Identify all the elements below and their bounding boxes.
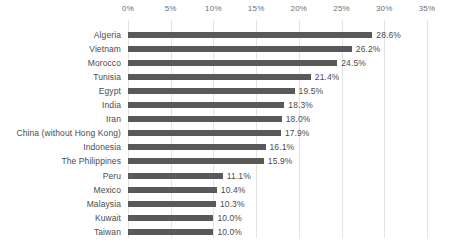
bar-row: Iran18.0%	[0, 112, 452, 126]
bar-row: Peru11.1%	[0, 169, 452, 183]
bar-value-label: 10.3%	[220, 197, 245, 211]
bar-value-label: 10.4%	[221, 183, 246, 197]
bar-value-label: 26.2%	[356, 42, 381, 56]
bar[interactable]	[128, 144, 266, 150]
bar[interactable]	[128, 201, 216, 207]
bar-rows: Algeria28.6%Vietnam26.2%Morocco24.5%Tuni…	[0, 0, 452, 245]
bar-row: China (without Hong Kong)17.9%	[0, 126, 452, 140]
bar[interactable]	[128, 46, 352, 52]
bar-row: Indonesia16.1%	[0, 140, 452, 154]
bar-row: Egypt19.5%	[0, 84, 452, 98]
bar[interactable]	[128, 32, 372, 38]
bar[interactable]	[128, 158, 264, 164]
bar[interactable]	[128, 173, 223, 179]
bar-row: Vietnam26.2%	[0, 42, 452, 56]
bar-value-label: 19.5%	[299, 84, 324, 98]
bar[interactable]	[128, 74, 311, 80]
category-label: The Philippines	[0, 154, 121, 168]
category-label: Morocco	[0, 56, 121, 70]
bar-row: The Philippines15.9%	[0, 154, 452, 168]
bar[interactable]	[128, 88, 295, 94]
bar-chart: 0%5%10%15%20%25%30%35% Algeria28.6%Vietn…	[0, 0, 452, 245]
bar[interactable]	[128, 215, 213, 221]
category-label: Mexico	[0, 183, 121, 197]
category-label: India	[0, 98, 121, 112]
bar-value-label: 16.1%	[270, 140, 295, 154]
bar[interactable]	[128, 102, 284, 108]
bar[interactable]	[128, 130, 281, 136]
bar-value-label: 18.3%	[288, 98, 313, 112]
bar-value-label: 10.0%	[217, 211, 242, 225]
bar-value-label: 24.5%	[341, 56, 366, 70]
category-label: China (without Hong Kong)	[0, 126, 121, 140]
category-label: Vietnam	[0, 42, 121, 56]
bar[interactable]	[128, 229, 213, 235]
bar-row: India18.3%	[0, 98, 452, 112]
bar[interactable]	[128, 187, 217, 193]
category-label: Iran	[0, 112, 121, 126]
bar-value-label: 18.0%	[286, 112, 311, 126]
bar-value-label: 21.4%	[315, 70, 340, 84]
category-label: Indonesia	[0, 140, 121, 154]
category-label: Algeria	[0, 28, 121, 42]
bar-value-label: 15.9%	[268, 154, 293, 168]
bar-value-label: 11.1%	[227, 169, 251, 183]
bar-row: Morocco24.5%	[0, 56, 452, 70]
category-label: Egypt	[0, 84, 121, 98]
bar-row: Malaysia10.3%	[0, 197, 452, 211]
bar-row: Kuwait10.0%	[0, 211, 452, 225]
category-label: Malaysia	[0, 197, 121, 211]
bar-value-label: 17.9%	[285, 126, 310, 140]
bar-row: Taiwan10.0%	[0, 225, 452, 239]
category-label: Peru	[0, 169, 121, 183]
bar-value-label: 10.0%	[217, 225, 242, 239]
bar-value-label: 28.6%	[376, 28, 401, 42]
category-label: Taiwan	[0, 225, 121, 239]
bar-row: Mexico10.4%	[0, 183, 452, 197]
category-label: Tunisia	[0, 70, 121, 84]
bar-row: Tunisia21.4%	[0, 70, 452, 84]
category-label: Kuwait	[0, 211, 121, 225]
bar-row: Algeria28.6%	[0, 28, 452, 42]
bar[interactable]	[128, 116, 282, 122]
bar[interactable]	[128, 60, 337, 66]
